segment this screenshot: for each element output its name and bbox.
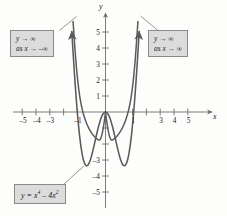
y-tick-label-5: 5 — [90, 28, 100, 37]
equation-middle: – 4x — [40, 191, 56, 200]
equation-prefix: y = x — [21, 191, 38, 200]
equation-exponent-2: 2 — [56, 189, 59, 195]
x-tick-label-neg4: –4 — [30, 116, 44, 125]
callout-right-end-behavior: y → ∞ as x → ∞ — [148, 30, 188, 57]
y-axis — [102, 13, 109, 208]
y-tick-label-neg5: –5 — [87, 188, 100, 197]
y-tick-label-1: 1 — [90, 92, 100, 101]
x-tick-label-4: 4 — [169, 116, 181, 125]
y-axis-title: y — [99, 2, 103, 11]
callout-equation: y = x4 – 4x2 — [14, 184, 66, 204]
y-tick-label-neg3: –3 — [87, 156, 100, 165]
x-tick-label-3: 3 — [155, 116, 167, 125]
callout-right-line2: as x → ∞ — [154, 44, 182, 54]
x-tick-label-neg1: –1 — [71, 116, 85, 125]
x-tick-label-1: 1 — [127, 116, 139, 125]
y-tick-label-3: 3 — [90, 60, 100, 69]
callout-left-line2: as x → –∞ — [16, 44, 48, 54]
leader-line-equation — [64, 166, 84, 184]
x-axis — [13, 109, 212, 116]
y-tick-label-neg4: –4 — [87, 172, 100, 181]
curve-left-branch — [72, 32, 106, 166]
polynomial-graph-figure: –5 –4 –3 –1 1 3 4 5 5 4 3 2 1 –3 –4 –5 y… — [0, 0, 227, 216]
x-tick-label-5: 5 — [183, 116, 195, 125]
y-tick-label-2: 2 — [90, 76, 100, 85]
curve-right-branch — [106, 32, 140, 166]
callout-left-end-behavior: y → ∞ as x → –∞ — [10, 30, 54, 57]
x-axis-title: x — [213, 112, 217, 121]
callout-right-line1: y → ∞ — [154, 34, 182, 44]
x-tick-label-neg3: –3 — [44, 116, 58, 125]
callout-left-line1: y → ∞ — [16, 34, 48, 44]
x-tick-label-neg5: –5 — [16, 116, 30, 125]
leader-line-right — [141, 16, 159, 31]
y-tick-label-4: 4 — [90, 44, 100, 53]
